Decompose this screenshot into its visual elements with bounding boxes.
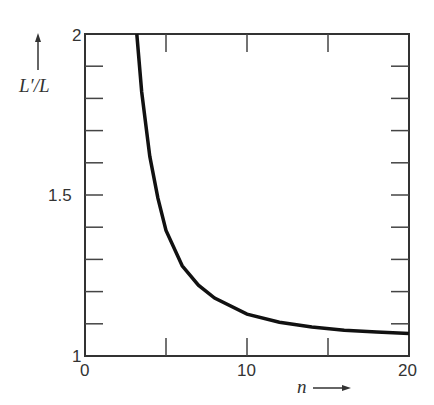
y-tick-label-2: 2 [72,26,81,45]
x-tick-label-10: 10 [237,361,256,380]
x-ticks [166,34,328,356]
y-tick-label-1.5: 1.5 [48,186,72,205]
x-axis-label: n [297,376,307,397]
x-tick-label-0: 0 [80,361,89,380]
data-curve [137,34,409,334]
x-tick-label-20: 20 [398,361,417,380]
x-arrowhead-icon [342,385,351,391]
y-ticks [85,66,409,324]
y-axis-label: L′/L [18,75,50,96]
y-arrowhead-icon [35,33,41,42]
plot-frame [85,34,409,356]
chart: 2 1.5 1 0 10 20 L′/L n [0,0,434,405]
